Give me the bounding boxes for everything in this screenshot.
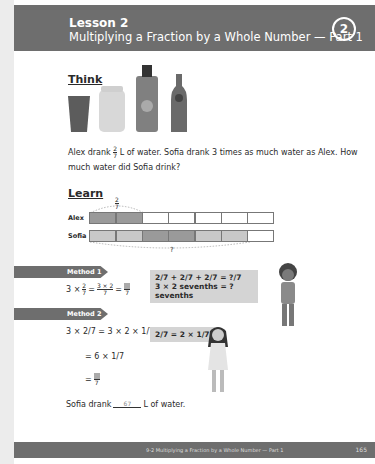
drink-containers-illustration: [66, 62, 196, 136]
glass-bottle-icon: [171, 74, 187, 132]
jar-icon: [99, 86, 125, 132]
lesson-subtitle: Multiplying a Fraction by a Whole Number…: [69, 30, 363, 44]
bar-bottom-label: ?: [170, 246, 174, 254]
page-number: 165: [356, 446, 367, 453]
row-label-alex: Alex: [68, 214, 84, 222]
water-bottle-icon: [136, 65, 158, 132]
lesson-header: Lesson 2 Multiplying a Fraction by a Who…: [14, 5, 375, 51]
footer-text: 9-2 Multiplying a Fraction by a Whole Nu…: [146, 447, 284, 453]
bar-model-alex: [90, 212, 274, 224]
lesson-number-badge: 2: [332, 17, 356, 41]
method1-banner: Method 1: [14, 266, 108, 278]
girl-character-icon: [200, 325, 240, 400]
answer-sentence: Sofia drank 67 L of water.: [66, 400, 185, 409]
method2-line1: 3 × 2/7 = 3 × 2 × 1/7: [66, 327, 154, 336]
bar-model-sofia: [90, 230, 274, 242]
method2-banner: Method 2: [14, 308, 108, 320]
answer-blank: 67: [113, 401, 141, 408]
row-label-sofia: Sofia: [68, 232, 86, 240]
boy-character-icon: [258, 262, 308, 332]
method2-line3: =7: [85, 373, 100, 386]
method1-speech-bubble: 2/7 + 2/7 + 2/7 = ?/7 3 × 2 sevenths = ?…: [150, 270, 258, 303]
problem-text: Alex drank 27 L of water. Sofia drank 3 …: [68, 145, 358, 175]
method1-equation: 3 × 27 = 3 × 27 = 7: [66, 283, 130, 296]
learn-title: Learn: [68, 187, 103, 200]
cup-icon: [68, 96, 90, 132]
method2-line2: = 6 × 1/7: [85, 352, 124, 361]
page-footer: 9-2 Multiplying a Fraction by a Whole Nu…: [14, 442, 375, 458]
lesson-label: Lesson 2: [69, 16, 128, 30]
fraction: 27: [113, 146, 117, 159]
